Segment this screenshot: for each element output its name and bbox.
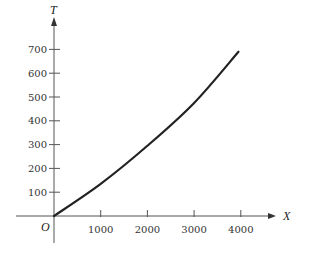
x-tick-label: 2000 [135,224,160,235]
x-axis-label: X [282,209,291,223]
x-tick-label: 1000 [88,224,113,235]
y-tick-label: 400 [28,115,47,126]
x-tick-label: 3000 [181,224,206,235]
x-tick-label: 4000 [228,224,253,235]
y-tick-label: 100 [28,187,47,198]
y-axis-arrow-icon [51,17,57,26]
axes [16,17,276,243]
y-tick-label: 200 [28,163,47,174]
x-axis-arrow-icon [268,213,276,219]
origin-label: O [41,220,50,234]
y-tick-label: 500 [28,92,47,103]
y-tick-label: 300 [28,139,47,150]
chart: 1000200030004000100200300400500600700 XT… [0,0,311,257]
y-tick-label: 700 [28,44,47,55]
y-tick-label: 600 [28,68,47,79]
data-line [54,52,238,216]
series [54,52,238,216]
y-axis-label: T [50,3,58,17]
